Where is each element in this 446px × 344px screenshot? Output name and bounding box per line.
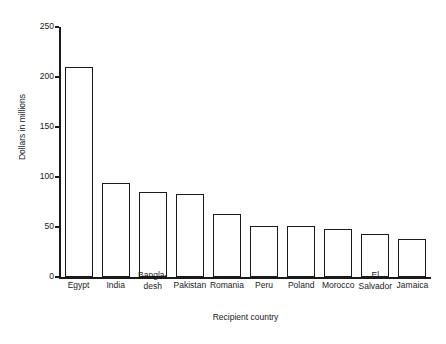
x-axis-category-labels: EgyptIndiaBangla- deshPakistanRomaniaPer… (60, 280, 431, 310)
bar-chart: Dollars in millions 050100150200250 Egyp… (0, 0, 446, 344)
y-tick-mark (55, 126, 59, 127)
y-tick-label-wrap: 150 (16, 122, 54, 131)
y-tick-label-wrap: 250 (16, 22, 54, 31)
chart-title (18, 0, 438, 3)
bar (139, 192, 167, 277)
y-tick-label: 100 (20, 172, 54, 181)
bar (213, 214, 241, 277)
x-axis-title: Recipient country (60, 312, 431, 322)
y-tick-mark (55, 176, 59, 177)
bar (250, 226, 278, 277)
bar (102, 183, 130, 277)
bar (287, 226, 315, 277)
y-tick-label-wrap: 0 (16, 272, 54, 281)
y-tick-label: 200 (20, 72, 54, 81)
y-tick-label: 50 (20, 222, 54, 231)
y-tick-label-wrap: 100 (16, 172, 54, 181)
y-tick-label: 150 (20, 122, 54, 131)
y-tick-mark (55, 26, 59, 27)
y-tick-label: 250 (20, 22, 54, 31)
y-tick-mark (55, 76, 59, 77)
x-category-label: Jamaica (390, 280, 435, 291)
bar (324, 229, 352, 277)
y-tick-label: 0 (20, 272, 54, 281)
y-tick-label-wrap: 50 (16, 222, 54, 231)
y-tick-mark (55, 226, 59, 227)
y-tick-mark (55, 276, 59, 277)
plot-area (60, 27, 431, 277)
bar (65, 67, 93, 277)
y-tick-label-wrap: 200 (16, 72, 54, 81)
bar (398, 239, 426, 277)
bar (176, 194, 204, 277)
